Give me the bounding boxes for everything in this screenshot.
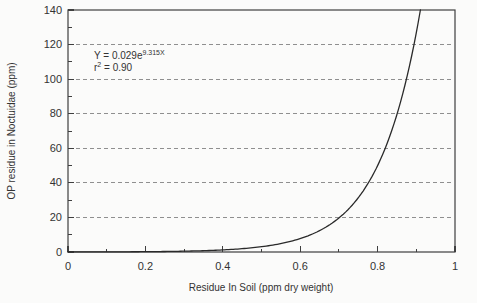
equation-line: Y = 0.029e9.315X — [94, 50, 165, 62]
x-tick-label-0: 0 — [65, 261, 71, 272]
y-tick-label-100: 100 — [32, 74, 62, 85]
x-tick-label-0.8: 0.8 — [370, 261, 385, 272]
x-tick-label-0.4: 0.4 — [215, 261, 230, 272]
x-tick-label-0.6: 0.6 — [293, 261, 308, 272]
y-tick-label-120: 120 — [32, 39, 62, 50]
plot-frame — [68, 10, 455, 252]
r-squared-rest: = 0.90 — [101, 62, 132, 73]
exponential-regression-chart: OP residue in Noctuidae (ppm) Residue In… — [0, 0, 477, 303]
y-tick-label-0: 0 — [32, 247, 62, 258]
fitted-curve — [68, 10, 420, 252]
x-tick-label-1: 1 — [452, 261, 458, 272]
y-tick-label-140: 140 — [32, 5, 62, 16]
y-tick-label-40: 40 — [32, 177, 62, 188]
r-squared-line: r2 = 0.90 — [94, 62, 165, 74]
y-tick-label-80: 80 — [32, 108, 62, 119]
y-tick-label-20: 20 — [32, 212, 62, 223]
equation-exponent: 9.315X — [142, 49, 164, 56]
x-tick-label-0.2: 0.2 — [138, 261, 153, 272]
y-axis-title: OP residue in Noctuidae (ppm) — [6, 62, 17, 199]
y-tick-label-60: 60 — [32, 143, 62, 154]
x-axis-title: Residue In Soil (ppm dry weight) — [189, 282, 334, 293]
plot-canvas — [0, 0, 477, 303]
regression-annotation: Y = 0.029e9.315X r2 = 0.90 — [94, 50, 165, 74]
equation-base: Y = 0.029e — [94, 50, 142, 61]
